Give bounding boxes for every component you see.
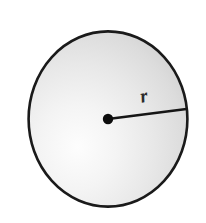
circle-radius-figure: r <box>0 0 206 223</box>
circle-diagram-canvas: r <box>0 0 206 223</box>
center-point-dot <box>103 114 113 124</box>
